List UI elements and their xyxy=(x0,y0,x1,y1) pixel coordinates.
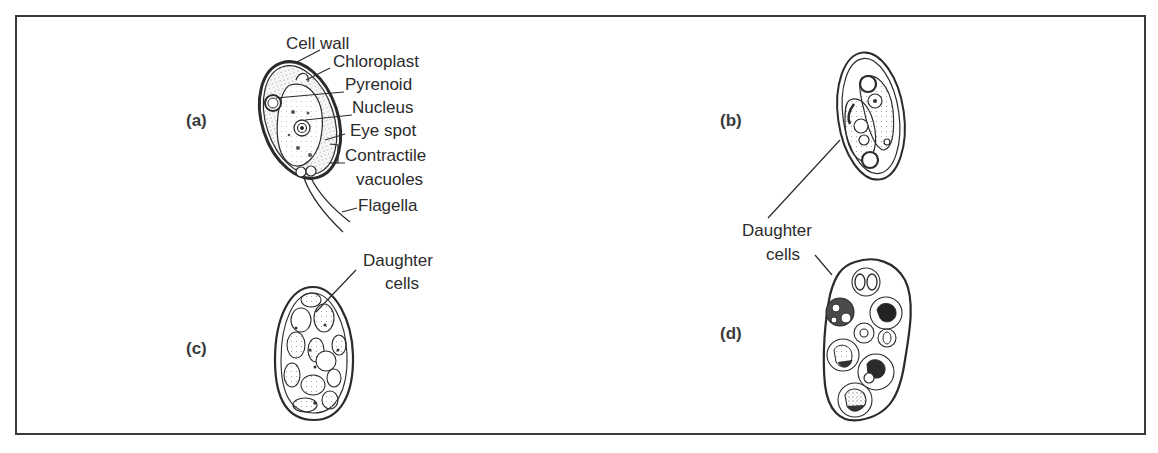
label-cells-bd: cells xyxy=(766,246,800,264)
panel-label-d: (d) xyxy=(720,324,742,344)
label-vacuoles: vacuoles xyxy=(356,171,423,189)
cell-b-drawing xyxy=(768,48,913,218)
figure-drawings xyxy=(0,0,1158,453)
label-cells-c: cells xyxy=(385,275,419,293)
cell-a-drawing xyxy=(245,50,357,232)
label-cell-wall: Cell wall xyxy=(286,35,349,53)
label-daughter-c: Daughter xyxy=(363,252,433,270)
panel-label-c: (c) xyxy=(186,339,207,359)
label-pyrenoid: Pyrenoid xyxy=(345,76,412,94)
label-contractile: Contractile xyxy=(345,147,426,165)
label-chloroplast: Chloroplast xyxy=(333,53,419,71)
cell-d-drawing xyxy=(815,255,911,420)
label-daughter-bd: Daughter xyxy=(742,222,812,240)
cell-c-drawing xyxy=(275,270,356,420)
panel-label-a: (a) xyxy=(186,111,207,131)
label-eye-spot: Eye spot xyxy=(350,122,416,140)
label-nucleus: Nucleus xyxy=(352,99,413,117)
label-flagella: Flagella xyxy=(358,197,418,215)
panel-label-b: (b) xyxy=(720,111,742,131)
